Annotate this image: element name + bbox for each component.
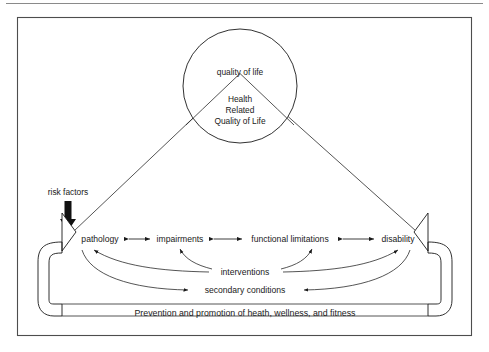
hrqol-line-1: Health — [228, 94, 253, 104]
figure-root: quality of life Health Related Quality o… — [0, 0, 489, 352]
node-interventions: interventions — [221, 267, 270, 277]
prevention-band-label: Prevention and promotion of heath, welln… — [134, 308, 356, 318]
right-block-arrow — [414, 213, 452, 316]
disablement-model-diagram: quality of life Health Related Quality o… — [0, 0, 489, 352]
arrow-interventions-impairments — [180, 249, 212, 269]
node-functional-limitations: functional limitations — [251, 234, 328, 244]
node-disability: disability — [382, 234, 416, 244]
left-block-arrow — [38, 213, 76, 316]
node-pathology: pathology — [81, 234, 119, 244]
quality-of-life-label: quality of life — [217, 67, 264, 77]
node-impairments: impairments — [157, 234, 204, 244]
hrqol-line-2: Related — [226, 105, 255, 115]
arrow-interventions-functional — [281, 249, 312, 269]
hrqol-line-3: Quality of Life — [214, 116, 266, 126]
node-secondary-conditions: secondary conditions — [205, 285, 286, 295]
risk-factors-label: risk factors — [48, 187, 89, 197]
